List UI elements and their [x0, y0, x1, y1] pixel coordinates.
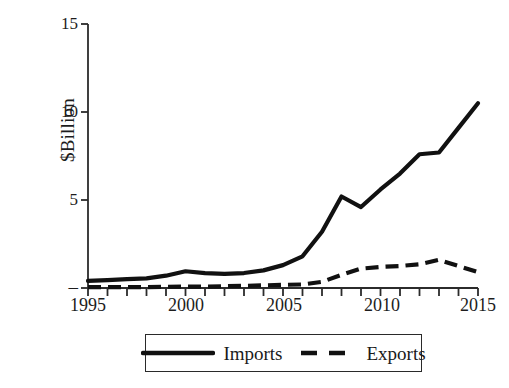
legend-swatch-dashed-icon — [299, 347, 359, 359]
legend-label-imports: Imports — [223, 344, 282, 363]
legend-entry-exports: Exports — [299, 344, 426, 363]
legend-label-exports: Exports — [367, 344, 426, 363]
x-axis-ticks — [88, 288, 478, 296]
plot-area — [0, 0, 509, 388]
chart-figure: $Billion 15 10 5 – 1995 2000 2005 2010 2… — [0, 0, 509, 388]
legend: Imports Exports — [145, 334, 422, 372]
legend-entry-imports: Imports — [141, 344, 282, 363]
y-axis-ticks — [81, 24, 88, 288]
series-line-imports — [88, 103, 478, 281]
legend-swatch-solid-icon — [141, 347, 215, 359]
